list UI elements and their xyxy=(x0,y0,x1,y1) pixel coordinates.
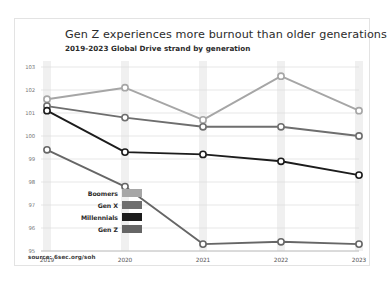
y-axis-tick-label: 99 xyxy=(19,156,35,162)
data-point xyxy=(122,85,128,91)
y-axis-tick-label: 103 xyxy=(19,64,35,70)
x-axis-tick-label: 2022 xyxy=(266,257,296,263)
legend-label: Gen X xyxy=(98,202,118,209)
category-band xyxy=(277,61,285,251)
data-point xyxy=(44,147,50,153)
data-point xyxy=(200,124,206,130)
data-point xyxy=(200,117,206,123)
data-point xyxy=(356,241,362,247)
chart-card: Gen Z experiences more burnout than olde… xyxy=(14,18,370,266)
legend-item[interactable]: Gen Z xyxy=(60,223,142,235)
x-axis-tick-label: 2021 xyxy=(188,257,218,263)
data-point xyxy=(356,108,362,114)
y-axis-tick-label: 98 xyxy=(19,179,35,185)
data-point xyxy=(122,115,128,121)
legend-label: Boomers xyxy=(88,190,118,197)
category-band xyxy=(43,61,51,251)
y-axis-tick-label: 102 xyxy=(19,87,35,93)
legend-label: Gen Z xyxy=(98,226,118,233)
x-axis-tick-label: 2020 xyxy=(110,257,140,263)
source-note: source: 6sec.org/soh xyxy=(28,254,95,260)
data-point xyxy=(200,241,206,247)
data-point xyxy=(356,133,362,139)
legend-item[interactable]: Boomers xyxy=(60,187,142,199)
data-point xyxy=(356,172,362,178)
data-point xyxy=(278,73,284,79)
data-point xyxy=(278,158,284,164)
legend-item[interactable]: Millennials xyxy=(60,211,142,223)
legend-item[interactable]: Gen X xyxy=(60,199,142,211)
data-point xyxy=(278,239,284,245)
category-band xyxy=(355,61,363,251)
y-axis-tick-label: 96 xyxy=(19,225,35,231)
legend-label: Millennials xyxy=(81,214,118,221)
legend-swatch xyxy=(122,189,142,197)
legend-swatch xyxy=(122,213,142,221)
legend-swatch xyxy=(122,201,142,209)
x-axis-tick-label: 2023 xyxy=(344,257,374,263)
chart-legend: BoomersGen XMillennialsGen Z xyxy=(60,187,142,235)
y-axis-tick-label: 95 xyxy=(19,248,35,254)
data-point xyxy=(122,149,128,155)
y-axis-tick-label: 100 xyxy=(19,133,35,139)
y-axis-tick-label: 97 xyxy=(19,202,35,208)
data-point xyxy=(200,151,206,157)
data-point xyxy=(278,124,284,130)
legend-swatch xyxy=(122,225,142,233)
y-axis-tick-label: 101 xyxy=(19,110,35,116)
data-point xyxy=(44,108,50,114)
data-point xyxy=(44,96,50,102)
